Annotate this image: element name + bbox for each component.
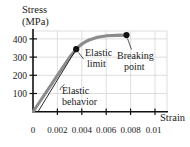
breaking-point-label-line2: point bbox=[124, 61, 145, 72]
x-tick-label-0008: 0.008 bbox=[120, 125, 141, 135]
elastic-limit-label-line1: Elastic bbox=[85, 47, 113, 58]
x-tick-label-0: 0 bbox=[31, 125, 36, 135]
stress-strain-chart: Stress (MPa) Strain 400 300 200 100 0 0.… bbox=[0, 0, 190, 147]
breaking-point-marker bbox=[123, 32, 129, 38]
x-axis-title: Strain bbox=[160, 112, 186, 123]
y-axis-title-line1: Stress bbox=[22, 4, 47, 15]
x-tick-label-0002: 0.002 bbox=[47, 125, 67, 135]
elastic-limit-marker bbox=[73, 46, 79, 52]
breaking-point-label-line1: Breaking bbox=[117, 50, 154, 61]
y-axis-title-line2: (MPa) bbox=[22, 16, 49, 28]
x-tick-label-0006: 0.006 bbox=[96, 125, 117, 135]
elastic-behavior-label-line1: Elastic bbox=[62, 85, 90, 96]
y-tick-label-100: 100 bbox=[13, 89, 28, 99]
x-tick-label-001: 0.01 bbox=[146, 125, 162, 135]
elastic-limit-label-line2: limit bbox=[87, 58, 106, 69]
stress-strain-figure: Stress (MPa) Strain 400 300 200 100 0 0.… bbox=[0, 0, 190, 147]
elastic-behavior-label-line2: behavior bbox=[62, 96, 98, 107]
y-tick-label-200: 200 bbox=[13, 71, 28, 81]
y-tick-label-300: 300 bbox=[13, 53, 28, 63]
y-tick-label-400: 400 bbox=[13, 35, 28, 45]
x-tick-label-0004: 0.004 bbox=[72, 125, 93, 135]
